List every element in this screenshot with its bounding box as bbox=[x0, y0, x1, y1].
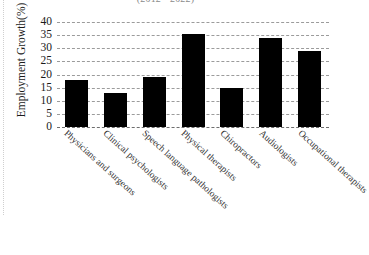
bar bbox=[104, 93, 127, 127]
plot-area bbox=[57, 22, 329, 127]
y-axis-tick: 15 bbox=[12, 82, 52, 94]
bar bbox=[182, 34, 205, 127]
y-axis-tick: 40 bbox=[12, 16, 52, 28]
x-axis-tick: Physicians and surgeons bbox=[63, 128, 139, 197]
chart-title: (2012 - 2022) bbox=[0, 0, 331, 4]
y-axis-tick-labels: 0510152025303540 bbox=[12, 22, 52, 127]
x-axis-tick: Occupational therapists bbox=[296, 128, 369, 195]
page-edge-artifact bbox=[3, 0, 5, 215]
bar bbox=[65, 80, 88, 127]
y-axis-tick: 10 bbox=[12, 95, 52, 107]
bar bbox=[220, 88, 243, 127]
bar bbox=[143, 77, 166, 127]
y-axis-tick: 35 bbox=[12, 29, 52, 41]
gridline bbox=[57, 22, 329, 23]
y-axis-tick: 20 bbox=[12, 69, 52, 81]
y-axis-tick: 30 bbox=[12, 43, 52, 55]
y-axis-tick: 5 bbox=[12, 108, 52, 120]
bar bbox=[298, 51, 321, 127]
y-axis-tick: 25 bbox=[12, 56, 52, 68]
x-axis-tick: Clinical psychologists bbox=[102, 128, 171, 192]
bar bbox=[259, 38, 282, 127]
y-axis-tick: 0 bbox=[12, 121, 52, 133]
x-axis-tick-labels: Physicians and surgeonsClinical psycholo… bbox=[57, 128, 329, 253]
